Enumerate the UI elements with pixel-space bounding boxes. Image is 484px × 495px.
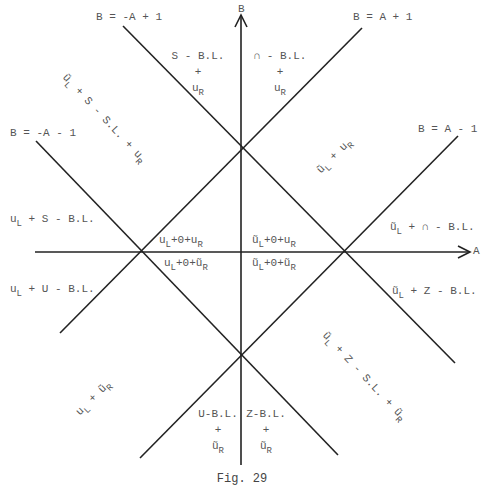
- region-left-lower: uL + U - B.L.: [10, 284, 95, 295]
- region-subscript: R: [199, 88, 204, 98]
- region-text: +: [168, 64, 228, 80]
- region-text: ∩ - B.L.: [250, 48, 310, 64]
- diagram-canvas: [0, 0, 484, 495]
- region-text: ũ: [260, 440, 267, 452]
- region-center-q2: uL+0+uR: [159, 235, 203, 246]
- line-label-b-eq-neg-a-plus-1: B = -A + 1: [96, 12, 162, 23]
- region-text: ũ: [212, 440, 219, 452]
- region-right-upper: ũL + ∩ - B.L.: [390, 222, 475, 233]
- region-bottom-left: U-B.L. + ũR: [196, 406, 240, 455]
- region-top-left: S - B.L. + uR: [168, 48, 228, 97]
- line-label-b-eq-a-minus-1: B = A - 1: [418, 124, 477, 135]
- region-subscript: R: [281, 88, 286, 98]
- region-text: u: [274, 82, 281, 94]
- region-text: u: [192, 82, 199, 94]
- region-right-lower: ũL + Z - B.L.: [392, 286, 477, 297]
- line-label-b-eq-neg-a-minus-1: B = -A - 1: [10, 128, 76, 139]
- region-center-q3: uL+0+ũR: [164, 258, 208, 269]
- figure-caption: Fig. 29: [0, 472, 484, 486]
- line-b-eq-a-minus-1: [140, 136, 458, 458]
- region-top-right: ∩ - B.L. + uR: [250, 48, 310, 97]
- region-text: U-B.L.: [196, 406, 240, 422]
- region-text: Z-B.L.: [244, 406, 288, 422]
- b-axis-label: B: [238, 4, 245, 15]
- region-text: +: [244, 422, 288, 438]
- line-label-b-eq-a-plus-1: B = A + 1: [353, 12, 412, 23]
- region-center-q4: ũL+0+ũR: [252, 258, 296, 269]
- region-subscript: R: [267, 446, 272, 456]
- region-subscript: R: [219, 446, 224, 456]
- region-left-upper: uL + S - B.L.: [10, 214, 95, 225]
- region-text: +: [250, 64, 310, 80]
- a-axis-label: A: [473, 246, 480, 257]
- region-bottom-right: Z-B.L. + ũR: [244, 406, 288, 455]
- region-text: S - B.L.: [168, 48, 228, 64]
- region-text: +: [196, 422, 240, 438]
- region-center-q1: ũL+0+uR: [252, 235, 296, 246]
